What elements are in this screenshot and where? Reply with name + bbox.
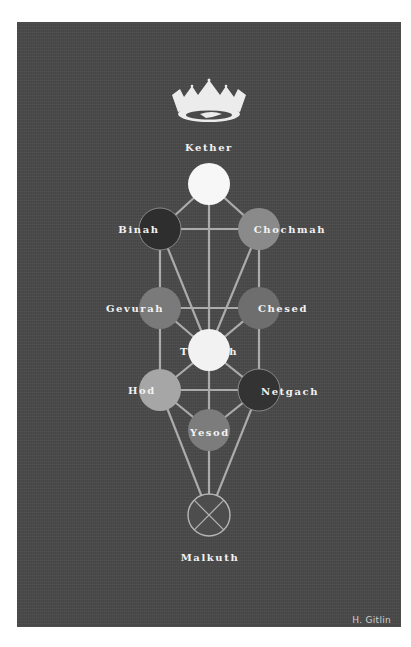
label-malkuth: Malkuth (181, 552, 240, 563)
crown-icon (172, 79, 246, 123)
label-yesod: Yesod (190, 427, 230, 438)
sephirah-malkuth[interactable] (188, 494, 230, 536)
label-tifereth: Tifereth (180, 346, 238, 357)
artist-signature: H. Gitlin (352, 615, 391, 625)
label-kether: Kether (185, 142, 233, 153)
label-binah: Binah (118, 224, 159, 235)
label-gevurah: Gevurah (106, 303, 164, 314)
sephirah-kether[interactable] (188, 163, 230, 205)
label-netzach: Netgach (261, 386, 319, 397)
label-chesed: Chesed (258, 303, 308, 314)
label-hod: Hod (128, 385, 156, 396)
tree-of-life-diagram (0, 0, 411, 647)
label-chochmah: Chochmah (254, 224, 326, 235)
